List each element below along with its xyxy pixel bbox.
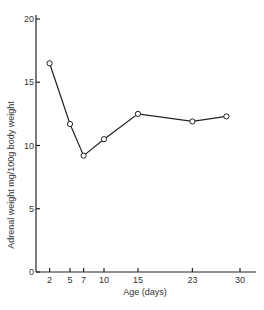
data-point-marker [67, 121, 72, 126]
y-axis-label: Adrenal weight mg/100g body weight [6, 101, 16, 249]
data-point-marker [47, 61, 52, 66]
data-point-marker [101, 137, 106, 142]
y-tick-label: 10 [24, 141, 34, 151]
x-tick-label: 23 [187, 275, 197, 285]
x-tick-label: 15 [133, 275, 143, 285]
x-tick-label: 5 [67, 275, 72, 285]
x-tick-label: 30 [235, 275, 245, 285]
data-point-marker [224, 114, 229, 119]
data-point-marker [190, 119, 195, 124]
data-point-marker [135, 111, 140, 116]
x-tick-label: 10 [99, 275, 109, 285]
y-axis-ticks: 05101520 [24, 14, 40, 277]
x-axis-label: Age (days) [123, 287, 167, 297]
axes [36, 15, 256, 272]
x-tick-label: 2 [47, 275, 52, 285]
series-line [50, 63, 227, 155]
data-series [47, 61, 229, 159]
x-axis-ticks: 25710152330 [47, 268, 245, 285]
y-tick-label: 0 [29, 267, 34, 277]
y-tick-label: 15 [24, 77, 34, 87]
x-tick-label: 7 [81, 275, 86, 285]
data-point-marker [81, 153, 86, 158]
y-tick-label: 20 [24, 14, 34, 24]
line-chart: 05101520 25710152330 Age (days) Adrenal … [0, 0, 264, 310]
y-tick-label: 5 [29, 204, 34, 214]
